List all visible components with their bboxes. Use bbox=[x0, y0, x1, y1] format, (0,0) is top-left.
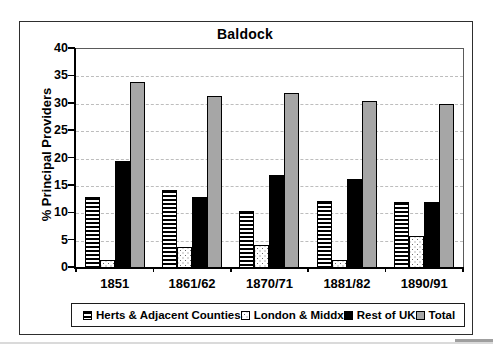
x-category-label: 1890/91 bbox=[384, 276, 464, 291]
legend-item: Total bbox=[416, 309, 456, 321]
x-category-label: 1861/62 bbox=[152, 276, 232, 291]
bar bbox=[254, 245, 269, 268]
y-tick-label: 10 bbox=[38, 204, 68, 220]
legend-label: Rest of UK bbox=[357, 309, 416, 321]
bar bbox=[362, 101, 377, 268]
bar bbox=[85, 197, 100, 268]
legend-item: London & Middx bbox=[241, 309, 344, 321]
x-tick-mark bbox=[75, 267, 77, 272]
bar-group bbox=[386, 49, 463, 268]
y-tick-mark bbox=[68, 212, 75, 214]
legend-item: Herts & Adjacent Counties bbox=[83, 309, 241, 321]
bar-group bbox=[76, 49, 153, 268]
x-axis-line bbox=[74, 267, 464, 269]
legend-item: Rest of UK bbox=[344, 309, 416, 321]
bar bbox=[192, 197, 207, 268]
page-edge-line bbox=[0, 342, 493, 344]
x-tick-mark bbox=[307, 267, 309, 272]
legend-key-swatch bbox=[344, 311, 353, 320]
legend-key-swatch bbox=[83, 311, 92, 320]
y-tick-label: 25 bbox=[38, 122, 68, 138]
x-category-label: 1851 bbox=[75, 276, 155, 291]
bar bbox=[239, 211, 254, 268]
legend-key-swatch bbox=[416, 311, 425, 320]
x-tick-mark bbox=[462, 267, 464, 272]
y-tick-label: 0 bbox=[38, 259, 68, 275]
y-tick-label: 35 bbox=[38, 67, 68, 83]
y-tick-mark bbox=[68, 266, 75, 268]
y-tick-mark bbox=[68, 239, 75, 241]
x-category-label: 1881/82 bbox=[307, 276, 387, 291]
bar bbox=[394, 202, 409, 268]
y-tick-mark bbox=[68, 184, 75, 186]
bar bbox=[409, 236, 424, 268]
bar bbox=[207, 96, 222, 268]
bar bbox=[439, 104, 454, 268]
x-category-label: 1870/71 bbox=[230, 276, 310, 291]
y-tick-label: 5 bbox=[38, 232, 68, 248]
legend-label: London & Middx bbox=[254, 309, 344, 321]
bar bbox=[162, 190, 177, 268]
plot-area bbox=[76, 48, 464, 268]
bar-group bbox=[153, 49, 230, 268]
chart-screenshot: Baldock % Principal Providers 0510152025… bbox=[0, 0, 493, 358]
legend: Herts & Adjacent CountiesLondon & MiddxR… bbox=[71, 303, 465, 327]
y-tick-mark bbox=[68, 102, 75, 104]
bar bbox=[115, 161, 130, 268]
y-tick-mark bbox=[68, 75, 75, 77]
bar bbox=[130, 82, 145, 268]
legend-key-swatch bbox=[241, 311, 250, 320]
bar bbox=[284, 93, 299, 268]
bar bbox=[317, 201, 332, 268]
y-tick-label: 15 bbox=[38, 177, 68, 193]
bar bbox=[269, 175, 284, 268]
x-tick-mark bbox=[153, 267, 155, 272]
chart-title: Baldock bbox=[19, 26, 471, 42]
y-tick-mark bbox=[68, 157, 75, 159]
bar bbox=[424, 202, 439, 268]
y-tick-label: 40 bbox=[38, 40, 68, 56]
bar-group bbox=[231, 49, 308, 268]
bar bbox=[347, 179, 362, 268]
legend-label: Herts & Adjacent Counties bbox=[96, 309, 241, 321]
y-tick-mark bbox=[68, 47, 75, 49]
bar-group bbox=[308, 49, 385, 268]
y-axis-line bbox=[74, 48, 76, 269]
y-tick-label: 20 bbox=[38, 150, 68, 166]
bar bbox=[177, 247, 192, 268]
y-tick-label: 30 bbox=[38, 95, 68, 111]
x-tick-mark bbox=[230, 267, 232, 272]
x-tick-mark bbox=[385, 267, 387, 272]
y-tick-mark bbox=[68, 129, 75, 131]
legend-label: Total bbox=[429, 309, 456, 321]
page-edge-line-dark bbox=[455, 339, 493, 342]
